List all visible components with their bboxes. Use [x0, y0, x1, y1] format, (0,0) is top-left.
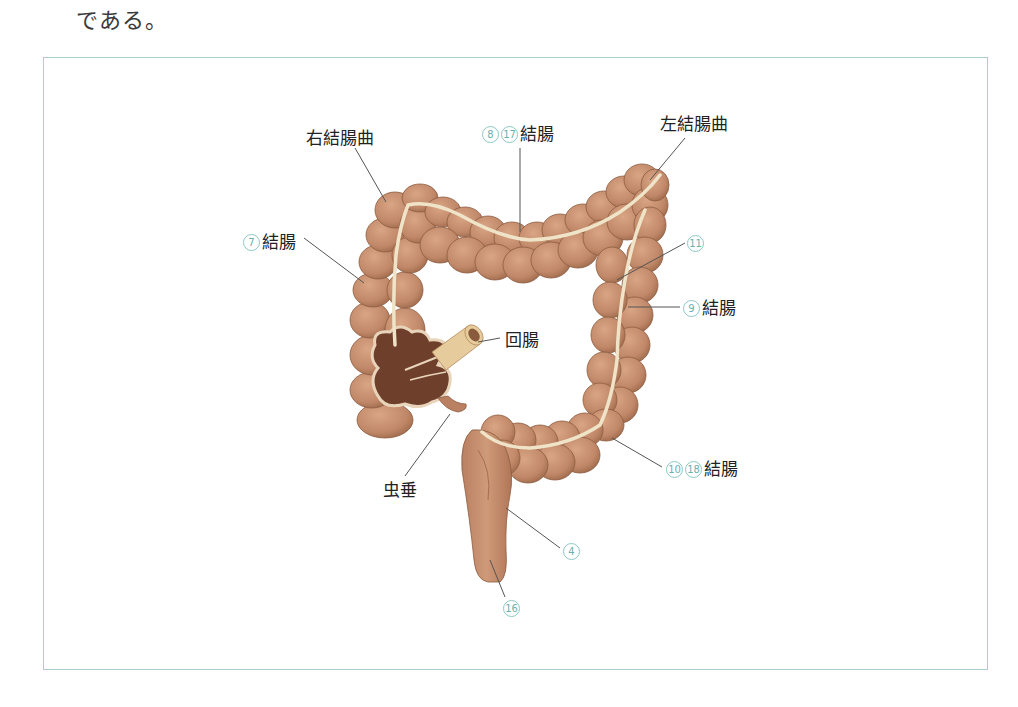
- label-left-colic-flexure: 左結腸曲: [660, 114, 728, 134]
- number-badge: 11: [687, 235, 704, 252]
- label-taenia-coli: 11: [687, 233, 706, 253]
- number-badge: 10: [666, 461, 683, 478]
- label-right-colic-flexure: 右結腸曲: [306, 128, 374, 148]
- label-sigmoid-colon: 1018結腸: [666, 459, 738, 479]
- appendix: [438, 396, 466, 412]
- label-descending-colon: 9結腸: [683, 298, 736, 318]
- label-rectum: 4: [563, 541, 582, 561]
- number-badge: 7: [243, 234, 260, 251]
- cecum-cutaway: [372, 327, 450, 407]
- label-appendix: 虫垂: [383, 480, 417, 500]
- number-badge: 16: [503, 600, 520, 617]
- label-ileum: 回腸: [505, 330, 539, 350]
- number-badge: 18: [685, 461, 702, 478]
- ileum: [432, 321, 487, 370]
- number-badge: 4: [563, 543, 580, 560]
- number-badge: 8: [482, 126, 499, 143]
- rectum: [462, 430, 512, 582]
- number-badge: 9: [683, 300, 700, 317]
- label-ascending-colon: 7結腸: [243, 232, 296, 252]
- label-transverse-colon: 817結腸: [482, 124, 554, 144]
- number-badge: 17: [501, 126, 518, 143]
- label-anus: 16: [503, 598, 522, 618]
